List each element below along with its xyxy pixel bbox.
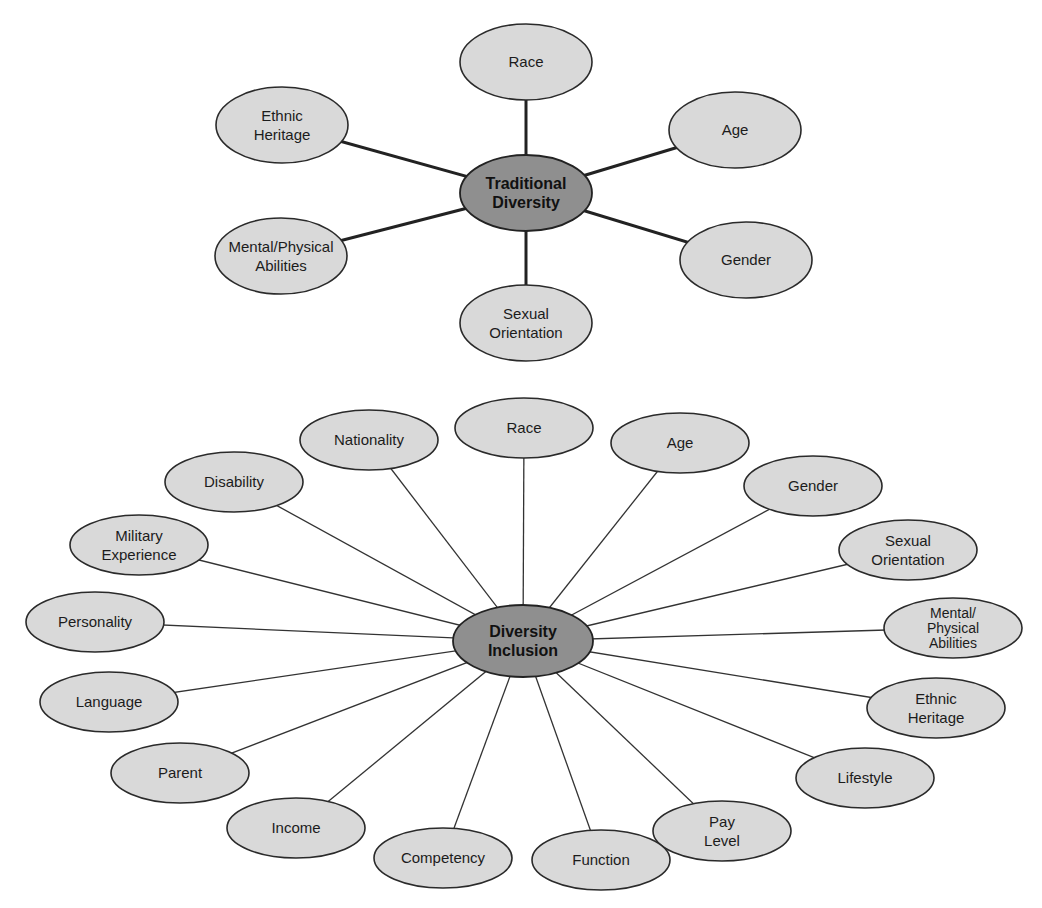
node-traditional-race: Race (460, 24, 592, 100)
node-inclusion-military-experience: MilitaryExperience (70, 515, 208, 575)
node-label: Nationality (334, 431, 405, 448)
node-inclusion-age: Age (611, 413, 749, 473)
node-label: Diversity (489, 623, 557, 640)
node-label: Income (271, 819, 320, 836)
node-label: Experience (101, 546, 176, 563)
node-inclusion-nationality: Nationality (300, 410, 438, 470)
node-label: Mental/ (930, 605, 976, 621)
node-label: Traditional (486, 175, 567, 192)
node-inclusion-parent: Parent (111, 743, 249, 803)
node-label: Mental/Physical (228, 238, 333, 255)
node-inclusion-personality: Personality (26, 592, 164, 652)
node-label: Orientation (871, 551, 944, 568)
node-traditional-mental-physical-abilities: Mental/PhysicalAbilities (215, 218, 347, 294)
node-traditional-sexual-orientation: SexualOrientation (460, 285, 592, 361)
node-inclusion-sexual-orientation: SexualOrientation (839, 520, 977, 580)
node-inclusion-competency: Competency (374, 828, 512, 888)
node-label: Personality (58, 613, 133, 630)
center-node-traditional-traditional-diversity: TraditionalDiversity (460, 155, 592, 231)
center-node-inclusion-diversity-inclusion: DiversityInclusion (453, 605, 593, 677)
node-label: Lifestyle (837, 769, 892, 786)
node-inclusion-income: Income (227, 798, 365, 858)
node-label: Race (508, 53, 543, 70)
node-label: Level (704, 832, 740, 849)
traditional-nodes: RaceEthnicHeritageAgeMental/PhysicalAbil… (215, 24, 812, 361)
node-label: Pay (709, 813, 735, 830)
traditional-diversity-diagram: RaceEthnicHeritageAgeMental/PhysicalAbil… (215, 24, 812, 361)
node-label: Language (76, 693, 143, 710)
diversity-diagrams: RaceEthnicHeritageAgeMental/PhysicalAbil… (0, 0, 1042, 908)
node-label: Gender (721, 251, 771, 268)
node-label: Abilities (255, 257, 307, 274)
node-inclusion-language: Language (40, 672, 178, 732)
node-inclusion-mental-physical-abilities: Mental/PhysicalAbilities (884, 598, 1022, 658)
node-label: Abilities (929, 635, 977, 651)
node-inclusion-function: Function (532, 830, 670, 890)
node-label: Age (722, 121, 749, 138)
node-label: Disability (204, 473, 265, 490)
node-label: Inclusion (488, 642, 558, 659)
node-label: Heritage (908, 709, 965, 726)
node-label: Gender (788, 477, 838, 494)
node-traditional-ethnic-heritage: EthnicHeritage (216, 87, 348, 163)
node-label: Parent (158, 764, 203, 781)
node-inclusion-pay-level: PayLevel (653, 801, 791, 861)
node-label: Sexual (885, 532, 931, 549)
node-inclusion-gender: Gender (744, 456, 882, 516)
node-label: Function (572, 851, 630, 868)
node-inclusion-race: Race (455, 398, 593, 458)
node-label: Diversity (492, 194, 560, 211)
node-label: Sexual (503, 305, 549, 322)
node-label: Orientation (489, 324, 562, 341)
node-label: Ethnic (261, 107, 303, 124)
diversity-inclusion-diagram: RaceNationalityAgeDisabilityGenderMilita… (26, 398, 1022, 890)
node-label: Heritage (254, 126, 311, 143)
node-label: Age (667, 434, 694, 451)
node-label: Ethnic (915, 690, 957, 707)
node-traditional-gender: Gender (680, 222, 812, 298)
node-inclusion-lifestyle: Lifestyle (796, 748, 934, 808)
node-inclusion-disability: Disability (165, 452, 303, 512)
node-inclusion-ethnic-heritage: EthnicHeritage (867, 678, 1005, 738)
node-label: Physical (927, 620, 979, 636)
node-label: Competency (401, 849, 486, 866)
node-traditional-age: Age (669, 92, 801, 168)
node-label: Military (115, 527, 163, 544)
node-label: Race (506, 419, 541, 436)
